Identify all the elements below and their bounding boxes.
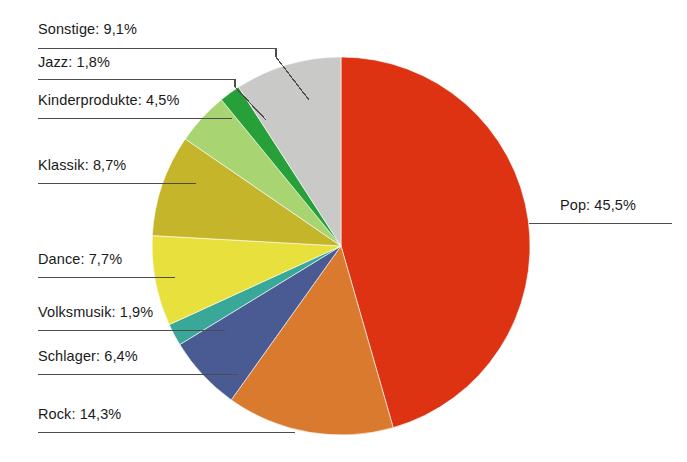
- slice-label-schlager: Schlager: 6,4%: [38, 349, 138, 364]
- slice-label-pop: Pop: 45,5%: [560, 198, 636, 213]
- slice-label-volksmusik: Volksmusik: 1,9%: [38, 305, 153, 320]
- slice-label-jazz: Jazz: 1,8%: [38, 55, 110, 70]
- pie-chart-figure: Sonstige: 9,1% Jazz: 1,8% Kinderprodukte…: [0, 0, 687, 462]
- slice-label-sonstige: Sonstige: 9,1%: [38, 22, 137, 37]
- slice-label-kinderprodukte: Kinderprodukte: 4,5%: [38, 93, 179, 108]
- slice-label-rock: Rock: 14,3%: [38, 407, 121, 422]
- pie-slice-group: [152, 57, 530, 435]
- slice-label-klassik: Klassik: 8,7%: [38, 158, 126, 173]
- slice-label-dance: Dance: 7,7%: [38, 252, 122, 267]
